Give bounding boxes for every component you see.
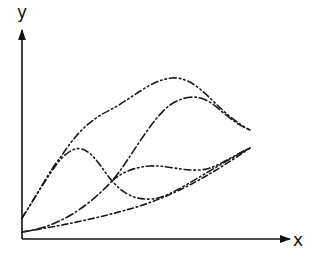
curve-bottom <box>22 148 250 232</box>
curves-diagram <box>0 0 316 265</box>
y-axis-label: y <box>17 4 27 21</box>
x-axis-label: x <box>293 232 303 249</box>
